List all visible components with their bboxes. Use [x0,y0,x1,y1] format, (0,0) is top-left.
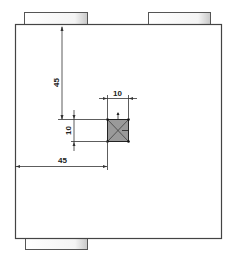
bottom-left-tab [26,238,88,250]
dim-vertical-45-label: 45 [52,78,61,87]
dim-vertical-10-label: 10 [64,126,73,135]
dim-horizontal-10-label: 10 [113,89,122,98]
dim-horizontal-45-label: 45 [58,156,67,165]
top-right-tab [149,13,211,25]
top-left-tab [25,13,88,25]
drawing-canvas: 45 10 10 45 [0,0,231,261]
